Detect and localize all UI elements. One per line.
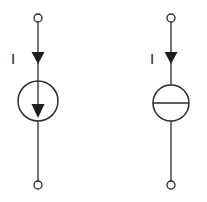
top-terminal-right <box>167 14 175 22</box>
current-label-left: I <box>11 50 15 67</box>
current-label-right: I <box>150 50 154 67</box>
current-direction-arrow-left <box>32 52 45 64</box>
circuit-symbols-svg: I I <box>0 0 207 202</box>
symbol-constant-current-source: I <box>150 14 189 189</box>
diagram-canvas: I I <box>0 0 207 202</box>
current-direction-arrow-right <box>165 52 178 64</box>
bottom-terminal-left <box>34 181 42 189</box>
symbol-ideal-current-source: I <box>11 14 58 189</box>
top-terminal-left <box>34 14 42 22</box>
bottom-terminal-right <box>167 181 175 189</box>
